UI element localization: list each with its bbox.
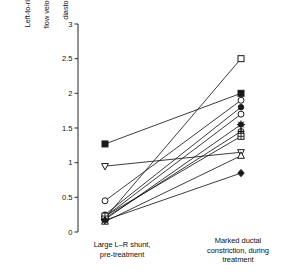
x-category-label-right: Marked ductalconstriction, duringtreatme…	[192, 236, 284, 265]
series-line	[105, 100, 241, 201]
x-category-line: pre-treatment	[76, 250, 168, 260]
data-point-marker	[238, 90, 244, 96]
y-tick-label: 0	[68, 228, 72, 237]
data-point-marker	[237, 120, 245, 128]
data-point-marker	[238, 56, 244, 62]
data-point-marker	[238, 105, 243, 110]
series-line	[105, 152, 241, 166]
data-point-marker	[102, 164, 109, 170]
series-lines	[105, 59, 241, 222]
x-category-line: Marked ductal	[192, 236, 284, 246]
series-line	[105, 93, 241, 144]
x-category-line: Large L–R shunt,	[76, 240, 168, 250]
x-category-line: treatment	[192, 255, 284, 265]
y-tick-label: 3	[68, 20, 72, 29]
series-line	[105, 173, 241, 220]
y-tick-label: 0.5	[62, 193, 73, 202]
y-tick-label: 1.5	[62, 124, 73, 133]
data-point-marker	[238, 111, 244, 117]
data-point-marker	[238, 97, 244, 103]
y-tick-label: 1	[68, 158, 72, 167]
data-point-marker	[238, 133, 244, 139]
plot-area: 00.511.522.53	[0, 0, 291, 276]
series-markers	[101, 56, 245, 225]
y-axis: 00.511.522.53	[62, 20, 78, 237]
y-tick-label: 2.5	[62, 54, 73, 63]
data-point-marker	[238, 169, 244, 176]
x-category-label-left: Large L–R shunt,pre-treatment	[76, 240, 168, 259]
series-line	[105, 136, 241, 216]
series-line	[105, 131, 241, 218]
series-line	[105, 107, 241, 214]
y-tick-label: 2	[68, 89, 72, 98]
data-point-marker	[102, 141, 108, 147]
x-category-line: constriction, during	[192, 246, 284, 256]
data-point-marker	[102, 198, 108, 204]
chart-container: Left-to-right ductal flow velocity at en…	[0, 0, 291, 276]
